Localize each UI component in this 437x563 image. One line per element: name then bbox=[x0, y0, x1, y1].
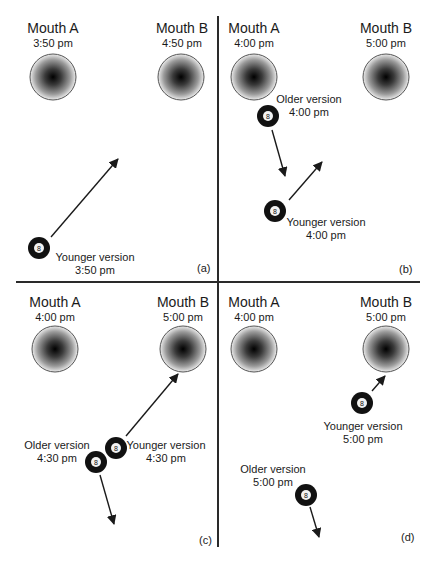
mouth-a-portal bbox=[231, 326, 277, 372]
mouth-time: 3:50 pm bbox=[27, 37, 78, 50]
ball-label-older: Older version 4:00 pm bbox=[276, 93, 341, 118]
older-trajectory-arrow bbox=[310, 507, 319, 537]
younger-trajectory-arrow bbox=[289, 162, 322, 200]
trajectory-arrow bbox=[51, 159, 118, 237]
version-time: 4:30 pm bbox=[126, 452, 205, 465]
version-name: Younger version bbox=[55, 251, 134, 264]
version-time: 4:00 pm bbox=[276, 106, 341, 119]
version-time: 5:00 pm bbox=[240, 476, 305, 489]
panel-tag-c: (c) bbox=[199, 534, 212, 546]
older-trajectory-arrow bbox=[100, 475, 114, 524]
mouth-time: 5:00 pm bbox=[360, 311, 412, 324]
panel-tag-b: (b) bbox=[399, 263, 412, 275]
mouth-name: Mouth B bbox=[157, 294, 209, 310]
mouth-a-label: Mouth A 4:00 pm bbox=[29, 294, 80, 324]
younger-trajectory-arrow bbox=[126, 374, 178, 436]
mouth-time: 4:00 pm bbox=[228, 37, 279, 50]
mouth-time: 4:00 pm bbox=[228, 311, 279, 324]
panel-a bbox=[28, 54, 204, 259]
wormhole-billiard-diagram: 8 bbox=[0, 0, 437, 563]
panel-c bbox=[32, 326, 206, 524]
mouth-time: 5:00 pm bbox=[157, 311, 209, 324]
ball-label-younger: Younger version 3:50 pm bbox=[55, 251, 134, 276]
mouth-a-label: Mouth A 4:00 pm bbox=[228, 20, 279, 50]
mouth-b-label: Mouth B 4:50 pm bbox=[156, 20, 208, 50]
version-time: 5:00 pm bbox=[323, 433, 402, 446]
ball-label-older: Older version 5:00 pm bbox=[240, 463, 305, 488]
older-trajectory-arrow bbox=[272, 130, 285, 176]
panel-tag-d: (d) bbox=[401, 531, 414, 543]
younger-trajectory-arrow bbox=[372, 376, 385, 391]
mouth-name: Mouth B bbox=[156, 20, 208, 36]
mouth-b-portal bbox=[158, 54, 204, 100]
mouth-b-label: Mouth B 5:00 pm bbox=[360, 294, 412, 324]
ball-label-younger: Younger version 5:00 pm bbox=[323, 420, 402, 445]
version-name: Older version bbox=[24, 439, 89, 452]
mouth-name: Mouth B bbox=[360, 294, 412, 310]
mouth-b-portal bbox=[160, 326, 206, 372]
mouth-a-portal bbox=[32, 326, 78, 372]
version-time: 4:00 pm bbox=[286, 229, 365, 242]
version-name: Older version bbox=[276, 93, 341, 106]
mouth-name: Mouth A bbox=[228, 294, 279, 310]
mouth-a-label: Mouth A 3:50 pm bbox=[27, 20, 78, 50]
mouth-name: Mouth A bbox=[228, 20, 279, 36]
mouth-a-portal bbox=[30, 54, 76, 100]
mouth-b-portal bbox=[363, 54, 409, 100]
mouth-time: 4:50 pm bbox=[156, 37, 208, 50]
version-time: 3:50 pm bbox=[55, 264, 134, 277]
version-name: Younger version bbox=[126, 439, 205, 452]
mouth-b-label: Mouth B 5:00 pm bbox=[157, 294, 209, 324]
mouth-b-portal bbox=[363, 326, 409, 372]
eight-ball-younger bbox=[105, 437, 127, 459]
eight-ball-younger bbox=[264, 200, 286, 222]
ball-label-younger: Younger version 4:00 pm bbox=[286, 216, 365, 241]
horizontal-divider bbox=[16, 281, 420, 283]
mouth-name: Mouth A bbox=[27, 20, 78, 36]
mouth-name: Mouth A bbox=[29, 294, 80, 310]
version-time: 4:30 pm bbox=[24, 452, 89, 465]
version-name: Younger version bbox=[286, 216, 365, 229]
mouth-time: 4:00 pm bbox=[29, 311, 80, 324]
version-name: Older version bbox=[240, 463, 305, 476]
eight-ball-younger bbox=[28, 237, 50, 259]
panel-b bbox=[231, 54, 409, 222]
ball-label-younger: Younger version 4:30 pm bbox=[126, 439, 205, 464]
eight-ball-younger bbox=[351, 392, 373, 414]
mouth-time: 5:00 pm bbox=[360, 37, 412, 50]
version-name: Younger version bbox=[323, 420, 402, 433]
mouth-b-label: Mouth B 5:00 pm bbox=[360, 20, 412, 50]
mouth-a-portal bbox=[231, 54, 277, 100]
ball-label-older: Older version 4:30 pm bbox=[24, 439, 89, 464]
mouth-name: Mouth B bbox=[360, 20, 412, 36]
mouth-a-label: Mouth A 4:00 pm bbox=[228, 294, 279, 324]
panel-tag-a: (a) bbox=[197, 262, 210, 274]
